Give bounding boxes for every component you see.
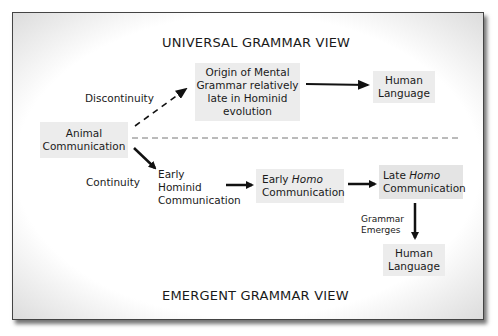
origin-to-human-arrow	[306, 84, 368, 85]
continuity-arrow	[134, 148, 155, 168]
discontinuity-arrow	[135, 89, 186, 126]
arrows-layer	[0, 0, 498, 336]
